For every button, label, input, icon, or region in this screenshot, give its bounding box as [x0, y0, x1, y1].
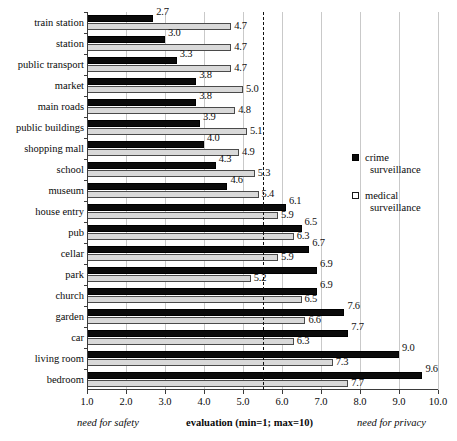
- bar-value-medical: 5.9: [281, 210, 294, 220]
- bar-value-medical: 5.3: [258, 168, 271, 178]
- bar-crime-surveillance: [87, 183, 227, 190]
- bar-medical-surveillance: [87, 380, 348, 387]
- category-label: public transport: [0, 59, 84, 70]
- bar-crime-surveillance: [87, 120, 200, 127]
- category-axis: train stationstationpublic transportmark…: [0, 12, 84, 390]
- category-label: cellar: [0, 248, 84, 259]
- x-tick-label: 1.0: [80, 396, 93, 408]
- category-label: shopping mall: [0, 143, 84, 154]
- category-label: garden: [0, 311, 84, 322]
- x-tick: [204, 390, 205, 394]
- x-tick-label: 8.0: [353, 396, 366, 408]
- x-tick-label: 9.0: [392, 396, 405, 408]
- caption-evaluation: evaluation (min=1; max=10): [186, 416, 313, 429]
- bar-value-medical: 5.1: [250, 126, 263, 136]
- bar-crime-surveillance: [87, 99, 196, 106]
- x-tick-label: 10.0: [429, 396, 447, 408]
- bar-value-medical: 4.7: [234, 63, 247, 73]
- x-tick: [321, 390, 322, 394]
- legend-label-line2: surveillance: [365, 202, 457, 214]
- bar-value-crime: 6.7: [312, 238, 325, 248]
- bar-value-crime: 6.9: [320, 280, 333, 290]
- category-label: church: [0, 290, 84, 301]
- x-tick-label: 6.0: [275, 396, 288, 408]
- x-tick: [399, 390, 400, 394]
- x-tick-label: 2.0: [119, 396, 132, 408]
- bar-value-crime: 4.0: [207, 133, 220, 143]
- bar-crime-surveillance: [87, 267, 317, 274]
- category-label: living room: [0, 353, 84, 364]
- legend-item: crimesurveillance: [352, 152, 457, 176]
- bar-value-crime: 4.6: [230, 175, 243, 185]
- bar-value-medical: 6.6: [308, 315, 321, 325]
- axis-captions: need for safety evaluation (min=1; max=1…: [0, 416, 457, 436]
- x-tick-label: 5.0: [236, 396, 249, 408]
- bar-value-crime: 3.3: [180, 49, 193, 59]
- x-tick: [438, 390, 439, 394]
- legend-item: medicalsurveillance: [352, 190, 457, 214]
- bar-value-crime: 7.7: [351, 322, 364, 332]
- category-label: park: [0, 269, 84, 280]
- bar-value-medical: 4.7: [234, 21, 247, 31]
- bar-crime-surveillance: [87, 309, 344, 316]
- x-axis-tick-labels: 1.02.03.04.05.06.07.08.09.010.0: [0, 396, 457, 410]
- reference-line: [263, 12, 264, 390]
- bar-value-medical: 6.3: [297, 336, 310, 346]
- bar-chart-figure: train stationstationpublic transportmark…: [0, 0, 457, 441]
- bar-crime-surveillance: [87, 57, 177, 64]
- bar-medical-surveillance: [87, 149, 239, 156]
- bar-medical-surveillance: [87, 212, 278, 219]
- bar-crime-surveillance: [87, 162, 216, 169]
- bar-value-crime: 6.1: [289, 196, 302, 206]
- legend-label-line1: crime: [365, 152, 389, 163]
- bar-value-crime: 2.7: [156, 7, 169, 17]
- bar-crime-surveillance: [87, 372, 422, 379]
- caption-need-for-privacy: need for privacy: [357, 416, 426, 429]
- bar-value-medical: 7.3: [336, 357, 349, 367]
- category-label: house entry: [0, 206, 84, 217]
- bar-medical-surveillance: [87, 359, 333, 366]
- legend: crimesurveillancemedicalsurveillance: [352, 152, 457, 228]
- x-tick: [126, 390, 127, 394]
- x-tick: [243, 390, 244, 394]
- bar-value-crime: 6.9: [320, 259, 333, 269]
- x-tick-label: 3.0: [158, 396, 171, 408]
- bar-crime-surveillance: [87, 78, 196, 85]
- bar-value-crime: 4.3: [219, 154, 232, 164]
- bar-value-crime: 6.5: [305, 217, 318, 227]
- x-tick: [165, 390, 166, 394]
- legend-label-line2: surveillance: [365, 164, 457, 176]
- bar-value-medical: 7.7: [351, 378, 364, 388]
- bar-value-crime: 3.8: [199, 70, 212, 80]
- bar-value-medical: 4.9: [242, 147, 255, 157]
- bar-medical-surveillance: [87, 254, 278, 261]
- category-label: market: [0, 80, 84, 91]
- bar-crime-surveillance: [87, 15, 153, 22]
- bar-value-crime: 9.0: [402, 343, 415, 353]
- bar-value-medical: 6.5: [305, 294, 318, 304]
- category-label: bedroom: [0, 374, 84, 385]
- bar-value-crime: 7.6: [347, 301, 360, 311]
- bar-medical-surveillance: [87, 44, 231, 51]
- bar-medical-surveillance: [87, 317, 305, 324]
- bar-value-medical: 5.0: [246, 84, 259, 94]
- filled-square-icon: [352, 154, 359, 161]
- x-tick-label: 7.0: [314, 396, 327, 408]
- caption-need-for-safety: need for safety: [77, 416, 139, 429]
- bar-value-medical: 5.9: [281, 252, 294, 262]
- category-label: museum: [0, 185, 84, 196]
- legend-label-line1: medical: [365, 190, 398, 201]
- category-label: train station: [0, 17, 84, 28]
- x-tick: [360, 390, 361, 394]
- bar-value-medical: 6.3: [297, 231, 310, 241]
- bar-crime-surveillance: [87, 141, 204, 148]
- category-label: main roads: [0, 101, 84, 112]
- bar-medical-surveillance: [87, 128, 247, 135]
- bar-medical-surveillance: [87, 275, 251, 282]
- bar-value-medical: 5.2: [254, 273, 267, 283]
- bar-value-crime: 9.6: [425, 364, 438, 374]
- bar-crime-surveillance: [87, 36, 165, 43]
- bar-value-medical: 4.8: [238, 105, 251, 115]
- category-label: car: [0, 332, 84, 343]
- x-tick: [87, 390, 88, 394]
